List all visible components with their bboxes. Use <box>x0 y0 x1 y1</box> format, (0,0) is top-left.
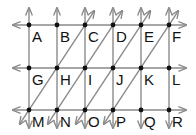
point-label-o: O <box>88 113 100 130</box>
point-label-n: N <box>60 113 71 130</box>
grid-lines <box>13 8 186 128</box>
point-label-l: L <box>172 71 180 88</box>
point-label-q: Q <box>144 113 156 130</box>
point-e <box>139 23 144 28</box>
point-label-f: F <box>172 28 181 45</box>
point-j <box>111 66 116 71</box>
point-h <box>55 66 60 71</box>
point-label-i: I <box>88 71 92 88</box>
point-g <box>27 66 32 71</box>
point-label-k: K <box>144 71 154 88</box>
line-grid-diagram: ABCDEFGHIJKLMNOPQR <box>0 0 196 135</box>
point-m <box>27 108 32 113</box>
point-a <box>27 23 32 28</box>
point-label-j: J <box>116 71 124 88</box>
point-c <box>83 23 88 28</box>
point-l <box>167 66 172 71</box>
point-label-m: M <box>32 113 45 130</box>
point-o <box>83 108 88 113</box>
point-label-e: E <box>144 28 154 45</box>
point-label-a: A <box>32 28 42 45</box>
point-d <box>111 23 116 28</box>
point-label-p: P <box>116 113 126 130</box>
point-k <box>139 66 144 71</box>
point-r <box>167 108 172 113</box>
point-n <box>55 108 60 113</box>
point-b <box>55 23 60 28</box>
point-f <box>167 23 172 28</box>
point-label-d: D <box>116 28 127 45</box>
point-label-c: C <box>88 28 99 45</box>
point-q <box>139 108 144 113</box>
point-label-b: B <box>60 28 70 45</box>
point-label-r: R <box>172 113 183 130</box>
point-label-g: G <box>32 71 44 88</box>
point-label-h: H <box>60 71 71 88</box>
point-i <box>83 66 88 71</box>
point-p <box>111 108 116 113</box>
